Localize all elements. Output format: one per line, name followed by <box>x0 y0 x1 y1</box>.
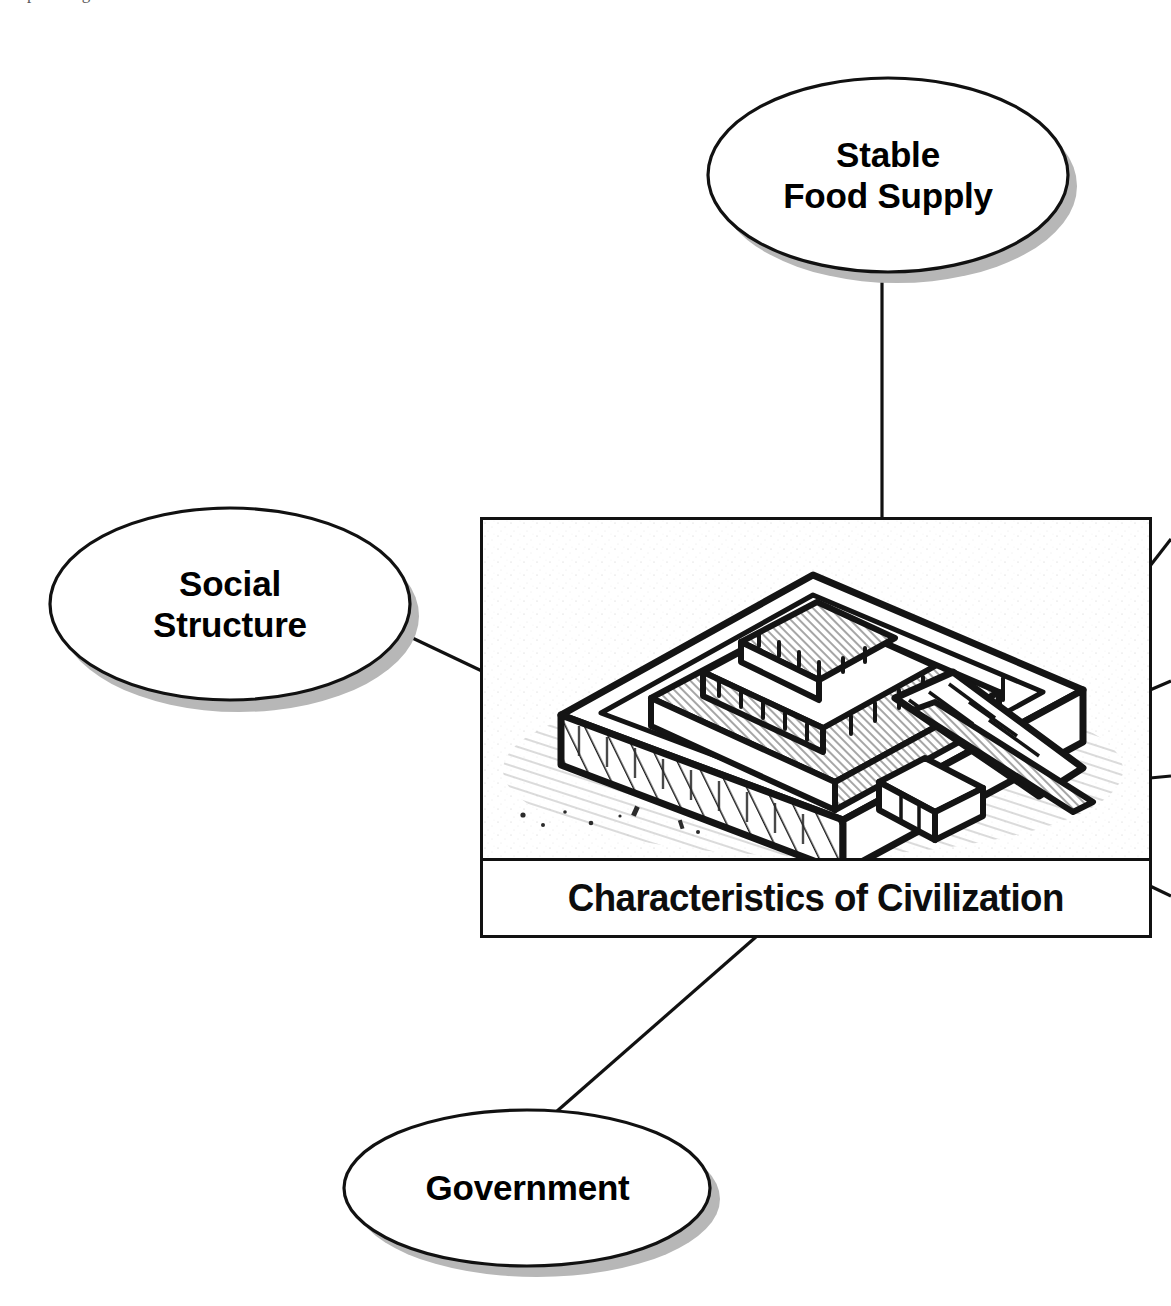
connector-government <box>556 936 757 1112</box>
caption-text: Characteristics of Civilization <box>568 876 1064 920</box>
connector-offscreen-right-4 <box>1150 886 1171 896</box>
node-social-structure[interactable] <box>50 508 419 712</box>
node-stable-food-supply[interactable] <box>708 78 1077 283</box>
diagram-canvas: Graphic Organizer <box>0 0 1171 1306</box>
connector-offscreen-right-2 <box>1150 681 1171 690</box>
central-concept-card[interactable]: Characteristics of Civilization <box>480 517 1152 938</box>
connector-social-structure <box>404 634 484 672</box>
node-government[interactable] <box>344 1110 720 1277</box>
node-social-structure-ellipse[interactable] <box>50 508 410 700</box>
connector-offscreen-right-1 <box>1150 539 1171 566</box>
connector-offscreen-right-3 <box>1150 776 1171 778</box>
node-stable-food-supply-ellipse[interactable] <box>708 78 1068 272</box>
caption-pane: Characteristics of Civilization <box>483 858 1149 935</box>
ziggurat-icon <box>483 520 1149 858</box>
node-government-ellipse[interactable] <box>344 1110 710 1266</box>
ziggurat-illustration-pane <box>483 520 1149 858</box>
